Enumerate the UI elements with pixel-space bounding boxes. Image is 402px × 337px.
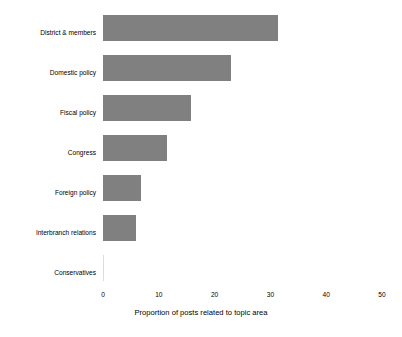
bar	[103, 255, 104, 281]
bar	[103, 135, 167, 161]
y-axis-tick-label: District & members	[0, 29, 96, 37]
x-axis-tick-label: 0	[101, 290, 105, 299]
y-axis-tick-label: Domestic policy	[0, 69, 96, 77]
bar	[103, 175, 141, 201]
plot-area	[103, 10, 382, 285]
x-axis-tick-label: 10	[155, 290, 162, 299]
bar	[103, 55, 231, 81]
bar	[103, 95, 191, 121]
bar-chart: District & members Domestic policy Fisca…	[0, 0, 402, 337]
x-axis-ticks: 0 10 20 30 40 50	[103, 290, 382, 302]
y-axis-tick-label: Interbranch relations	[0, 229, 96, 237]
bar	[103, 215, 136, 241]
bar	[103, 15, 278, 41]
y-axis-tick-label: Foreign policy	[0, 189, 96, 197]
x-axis-tick-label: 50	[378, 290, 385, 299]
y-axis-category-labels: District & members Domestic policy Fisca…	[0, 10, 96, 285]
y-axis-tick-label: Conservatives	[0, 269, 96, 277]
y-axis-tick-label: Congress	[0, 149, 96, 157]
x-axis-tick-label: 40	[323, 290, 330, 299]
y-axis-tick-label: Fiscal policy	[0, 109, 96, 117]
x-axis-tick-label: 20	[211, 290, 218, 299]
x-axis-title: Proportion of posts related to topic are…	[0, 307, 402, 318]
x-axis-tick-label: 30	[267, 290, 274, 299]
